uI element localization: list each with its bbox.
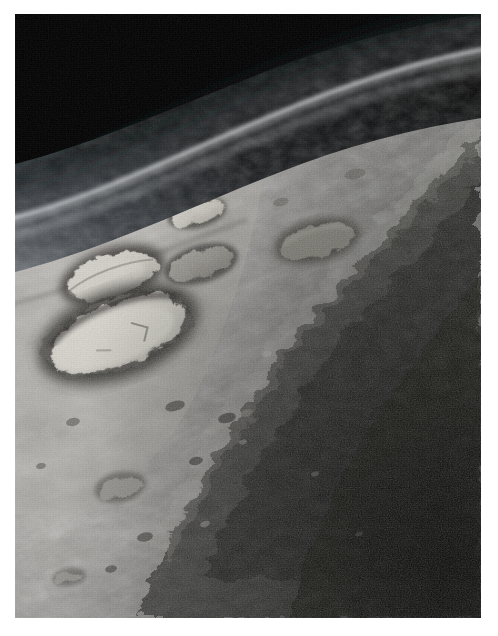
- screenshot-root: Black sky / space Atmospheric haze band …: [0, 0, 498, 636]
- film-grain: [15, 14, 481, 618]
- photograph-frame: Black sky / space Atmospheric haze band …: [15, 14, 481, 618]
- planetary-limb-photograph: [15, 14, 481, 618]
